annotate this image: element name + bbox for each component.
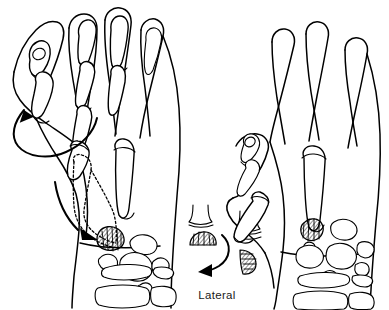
figure-root: Lateral	[0, 0, 389, 310]
left-trapezium-hatched	[97, 227, 124, 251]
lateral-caption: Lateral	[198, 289, 235, 301]
hand-surgery-illustration: Lateral	[0, 0, 389, 310]
left-forearm-bones	[95, 264, 176, 308]
